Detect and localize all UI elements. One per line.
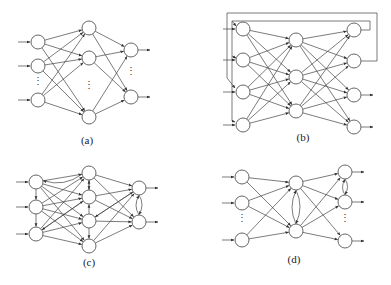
connection-edge [96, 221, 132, 222]
input-node [31, 59, 45, 73]
label-d: (d) [288, 253, 301, 266]
output-node [347, 23, 361, 37]
connection-edge [300, 36, 350, 105]
connection-edge [301, 188, 341, 235]
ellipsis: ⋮ [126, 65, 136, 76]
connection-edge [43, 198, 82, 205]
input-node [236, 22, 250, 36]
feedback-edge [95, 192, 133, 217]
connection-edge [95, 100, 124, 114]
recurrent-edge [139, 195, 142, 215]
output-node [132, 181, 146, 195]
panel-d-recurrent-hidden: ⋮⋮ [222, 165, 364, 248]
feedback-branch-2 [232, 56, 236, 58]
connection-edge [42, 186, 83, 216]
connection-edge [247, 188, 291, 234]
input-node [31, 93, 45, 107]
panel-c-lateral [16, 166, 158, 253]
connection-edge [43, 223, 82, 233]
label-a: (a) [81, 134, 94, 147]
label-b: (b) [297, 131, 310, 144]
connection-edge [249, 232, 289, 239]
connection-edge [303, 97, 347, 109]
connection-edge [95, 225, 132, 243]
connection-edge [96, 175, 132, 186]
connection-edge [301, 66, 348, 107]
connection-edge [248, 65, 291, 106]
connection-edge [250, 30, 289, 38]
connection-edge [249, 186, 289, 201]
hidden-node [82, 190, 96, 204]
output-node [347, 88, 361, 102]
hidden-node [82, 166, 96, 180]
panel-b-recurrent-feedback [223, 13, 377, 134]
hidden-node [289, 104, 303, 118]
input-node [236, 53, 250, 67]
connection-edge [43, 63, 83, 96]
connection-edge [303, 42, 347, 58]
connection-edge [94, 63, 125, 92]
hidden-node [289, 224, 303, 238]
input-node [29, 227, 43, 241]
ellipsis: ⋮ [84, 79, 94, 90]
hidden-node [82, 21, 96, 35]
connection-edge [96, 51, 124, 56]
feedback-branch-1 [232, 21, 236, 26]
connection-edge [303, 174, 338, 182]
panel-labels: (a) (b) (c) (d) [81, 131, 310, 269]
input-node [235, 233, 249, 247]
connection-edge [43, 174, 82, 181]
connection-edge [96, 189, 132, 195]
input-node [31, 35, 45, 49]
ellipsis: ⋮ [340, 212, 350, 223]
input-node [235, 196, 249, 210]
feedback-edge [42, 201, 83, 230]
panel-a-feedforward: ⋮⋮⋮ [18, 21, 150, 124]
input-node [236, 85, 250, 99]
connection-edge [248, 82, 290, 120]
connection-edge [94, 194, 135, 241]
input-node [29, 200, 43, 214]
connection-edge [43, 236, 82, 245]
connection-edge [303, 232, 338, 239]
input-node [235, 170, 249, 184]
output-node [338, 195, 352, 209]
connection-edge [250, 62, 289, 75]
ellipsis: ⋮ [33, 75, 43, 86]
output-node [338, 234, 352, 248]
output-node [338, 165, 352, 179]
connection-edge [249, 178, 289, 182]
hidden-node [289, 70, 303, 84]
recurrent-edge [292, 191, 296, 225]
connection-edge [44, 32, 83, 61]
connection-edge [41, 179, 84, 229]
connection-edge [250, 43, 289, 58]
connection-edge [250, 113, 289, 123]
connection-edge [301, 82, 348, 123]
label-c: (c) [83, 256, 96, 269]
hidden-node [82, 110, 96, 124]
connection-edge [93, 56, 127, 111]
connection-edge [94, 178, 134, 217]
hidden-node [289, 176, 303, 190]
recurrent-edge [343, 180, 346, 196]
output-node [347, 120, 361, 134]
recurrent-edge [345, 179, 348, 195]
connection-edge [248, 206, 289, 227]
output-node [124, 43, 138, 57]
output-node [132, 215, 146, 229]
ellipsis: ⋮ [237, 212, 247, 223]
connection-edge [43, 184, 82, 195]
input-node [29, 175, 43, 189]
connection-edge [303, 31, 347, 39]
output-node [347, 54, 361, 68]
recurrent-edge [296, 190, 300, 224]
hidden-node [82, 51, 96, 65]
connection-edge [45, 30, 82, 40]
output-node [124, 90, 138, 104]
hidden-node [82, 239, 96, 253]
connection-edge [300, 178, 340, 226]
connection-edge [43, 209, 82, 219]
hidden-node [82, 214, 96, 228]
connection-edge [247, 46, 292, 119]
